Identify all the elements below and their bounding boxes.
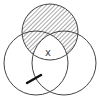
center-x-label: x — [45, 47, 51, 58]
venn-diagram: x — [0, 0, 99, 97]
tick-mark — [27, 75, 41, 83]
